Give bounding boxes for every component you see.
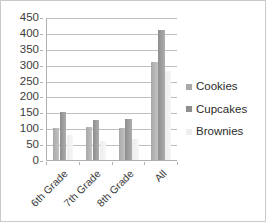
y-tick-label: 150	[20, 108, 39, 120]
bar-cupcakes-7th-grade	[93, 120, 99, 160]
bar-cookies-7th-grade	[86, 127, 92, 160]
y-tick-mark	[40, 50, 43, 51]
bar-cupcakes-8th-grade	[125, 119, 131, 160]
legend-swatch-icon	[186, 106, 192, 112]
y-tick-label: 400	[20, 28, 39, 40]
x-tick-mark	[79, 162, 80, 165]
bar-brownies-7th-grade	[100, 141, 106, 160]
legend-label: Cupcakes	[196, 104, 247, 116]
legend-swatch-icon	[186, 129, 192, 135]
y-tick-label: 50	[26, 139, 39, 151]
bar-group	[119, 18, 139, 160]
x-axis: 6th Grade7th Grade8th GradeAll	[46, 162, 177, 220]
bar-cupcakes-all	[158, 30, 164, 160]
y-tick-mark	[40, 66, 43, 67]
bar-cookies-all	[151, 62, 157, 161]
x-tick-mark	[112, 162, 113, 165]
y-tick-mark	[40, 129, 43, 130]
y-axis: 050100150200250300350400450	[5, 18, 43, 161]
y-tick-mark	[40, 113, 43, 114]
bar-cupcakes-6th-grade	[60, 112, 66, 160]
bar-cookies-6th-grade	[53, 128, 59, 160]
bar-group	[53, 18, 73, 160]
y-tick-mark	[40, 145, 43, 146]
y-tick-mark	[40, 82, 43, 83]
y-tick-mark	[40, 34, 43, 35]
y-tick-label: 250	[20, 76, 39, 88]
y-tick-label: 0	[33, 155, 39, 167]
x-tick-mark	[177, 162, 178, 165]
y-tick-mark	[40, 97, 43, 98]
bar-cookies-8th-grade	[119, 128, 125, 160]
y-tick-label: 100	[20, 123, 39, 135]
bars-layer	[47, 18, 177, 160]
y-tick-mark	[40, 18, 43, 19]
bar-brownies-all	[165, 71, 171, 160]
y-tick-label: 350	[20, 44, 39, 56]
y-tick-label: 450	[20, 12, 39, 24]
bar-group	[151, 18, 171, 160]
bar-brownies-8th-grade	[132, 139, 138, 160]
legend-label: Cookies	[196, 81, 238, 93]
x-tick-mark	[46, 162, 47, 165]
y-tick-label: 300	[20, 60, 39, 72]
bar-chart-figure: 050100150200250300350400450 6th Grade7th…	[0, 0, 266, 222]
legend-item-cookies[interactable]: Cookies	[186, 81, 264, 93]
bar-group	[86, 18, 106, 160]
legend-swatch-icon	[186, 84, 192, 90]
legend-item-cupcakes[interactable]: Cupcakes	[186, 104, 264, 116]
bar-brownies-6th-grade	[67, 135, 73, 160]
x-tick-mark	[144, 162, 145, 165]
chart-legend: CookiesCupcakesBrownies	[186, 81, 264, 149]
legend-item-brownies[interactable]: Brownies	[186, 126, 264, 138]
plot-area	[46, 18, 177, 161]
y-tick-label: 200	[20, 92, 39, 104]
y-tick-mark	[40, 161, 43, 162]
legend-label: Brownies	[196, 126, 243, 138]
